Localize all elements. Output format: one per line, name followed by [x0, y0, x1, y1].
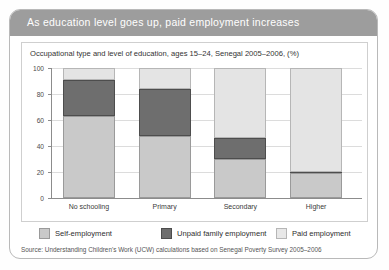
chart-card: As education level goes up, paid employm… — [9, 9, 378, 259]
bar-segment — [139, 136, 191, 198]
chart-panel: Occupational type and level of education… — [21, 42, 368, 222]
legend-item[interactable]: Unpaid family employment — [161, 226, 266, 240]
x-tick-label: Higher — [278, 203, 354, 210]
y-tick-label: 0 — [40, 195, 44, 202]
x-tick-label: Primary — [127, 203, 203, 210]
legend-swatch-icon — [161, 228, 172, 239]
bar-segment — [290, 68, 342, 172]
bar-segment — [214, 68, 266, 138]
legend-swatch-icon — [39, 228, 50, 239]
legend-label: Self-employment — [55, 229, 112, 238]
y-tick-label: 60 — [37, 117, 44, 124]
source-note: Source: Understanding Children's Work (U… — [21, 246, 322, 253]
bar-higher — [290, 68, 342, 198]
bar-segment — [214, 159, 266, 198]
chart-subtitle: Occupational type and level of education… — [30, 49, 299, 58]
bar-segment — [214, 138, 266, 159]
plot-area — [51, 68, 354, 198]
y-tick-label: 20 — [37, 169, 44, 176]
bar-no-schooling — [63, 68, 115, 198]
bar-segment — [139, 68, 191, 89]
chart-legend: Self-employmentUnpaid family employmentP… — [21, 226, 368, 242]
bar-segment — [63, 80, 115, 116]
x-tick-label: Secondary — [203, 203, 279, 210]
x-tick-label: No schooling — [51, 203, 127, 210]
page-title: As education level goes up, paid employm… — [27, 16, 299, 28]
legend-label: Unpaid family employment — [177, 229, 266, 238]
bar-segment — [63, 68, 115, 80]
legend-label: Paid employment — [292, 229, 351, 238]
y-tick-mark — [48, 198, 51, 199]
bar-segment — [290, 173, 342, 198]
bar-segment — [63, 116, 115, 198]
legend-item[interactable]: Paid employment — [276, 226, 351, 240]
bar-primary — [139, 68, 191, 198]
bar-segment — [139, 89, 191, 136]
y-tick-label: 80 — [37, 91, 44, 98]
y-tick-label: 40 — [37, 143, 44, 150]
legend-item[interactable]: Self-employment — [39, 226, 112, 240]
card-header: As education level goes up, paid employm… — [10, 10, 378, 36]
y-tick-label: 100 — [33, 65, 44, 72]
figure-root: As education level goes up, paid employm… — [0, 0, 389, 270]
bar-secondary — [214, 68, 266, 198]
legend-swatch-icon — [276, 228, 287, 239]
x-axis-line — [51, 198, 362, 199]
